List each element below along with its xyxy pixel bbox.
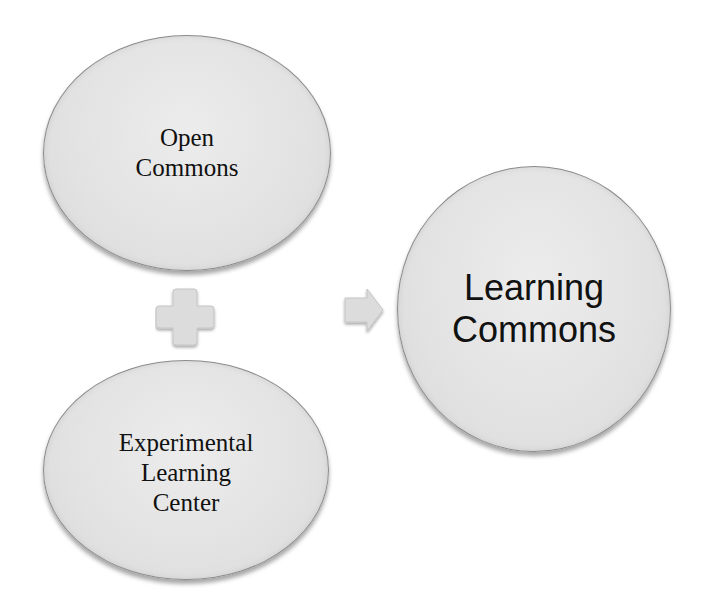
node-label-line: Commons — [452, 309, 616, 351]
node-open-commons: Open Commons — [43, 35, 331, 271]
node-label: Experimental Learning Center — [119, 428, 254, 518]
node-label-line: Learning — [119, 458, 254, 488]
arrow-right-icon — [341, 286, 387, 336]
node-label: Open Commons — [136, 123, 239, 183]
node-experimental-learning-center: Experimental Learning Center — [43, 360, 329, 580]
node-label-line: Experimental — [119, 428, 254, 458]
node-label-line: Open — [136, 123, 239, 153]
node-learning-commons: Learning Commons — [397, 166, 671, 452]
plus-icon — [155, 286, 217, 350]
node-label-line: Center — [119, 488, 254, 518]
node-label-line: Learning — [452, 267, 616, 309]
node-label-line: Commons — [136, 153, 239, 183]
node-label: Learning Commons — [452, 267, 616, 351]
